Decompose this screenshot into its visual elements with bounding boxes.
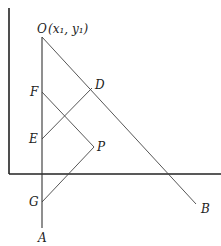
label-E: E — [28, 132, 38, 146]
line-OB — [42, 37, 196, 204]
line-ED — [42, 88, 92, 139]
label-D: D — [94, 78, 105, 92]
label-F: F — [29, 85, 39, 99]
label-B: B — [200, 202, 210, 216]
line-FP — [42, 92, 94, 147]
geometry-diagram: O (x₁, y₁) D F E P G A B — [0, 0, 221, 246]
label-O: O — [37, 22, 47, 36]
label-O-coordinates: (x₁, y₁) — [48, 22, 88, 36]
label-G: G — [29, 195, 39, 209]
label-A: A — [37, 231, 47, 245]
label-P: P — [96, 140, 106, 154]
